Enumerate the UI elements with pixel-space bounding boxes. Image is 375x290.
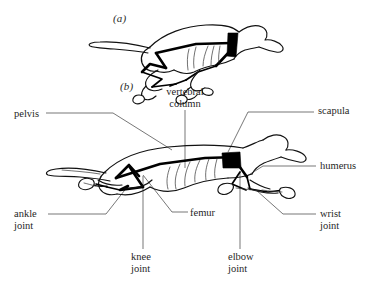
label-humerus: humerus xyxy=(320,160,356,172)
label-wrist-joint: wrist joint xyxy=(320,208,341,231)
label-femur: femur xyxy=(190,207,215,219)
label-knee-joint: knee joint xyxy=(131,251,151,274)
scapula-marker-b xyxy=(222,152,241,168)
label-scapula: scapula xyxy=(318,105,350,117)
label-elbow-joint: elbow joint xyxy=(228,251,254,274)
label-ankle-joint: ankle joint xyxy=(14,208,37,231)
anatomy-figure: (a) (b) xyxy=(0,0,375,290)
label-pelvis: pelvis xyxy=(14,108,39,120)
label-vertebral-column: vertebral column xyxy=(150,86,220,109)
panel-b-greyhound-drawing xyxy=(0,0,375,290)
